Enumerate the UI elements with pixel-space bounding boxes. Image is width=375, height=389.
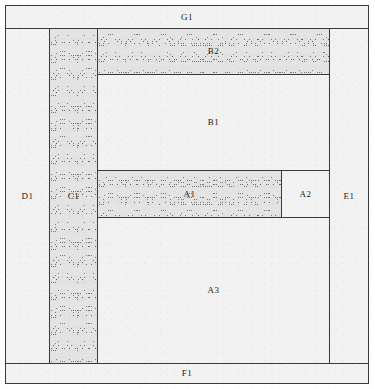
region-label-g1: G1 — [181, 13, 193, 22]
region-a2: A2 — [281, 170, 330, 218]
region-a3: A3 — [97, 217, 330, 364]
region-f1: F1 — [5, 363, 369, 384]
region-label-b1: B1 — [208, 118, 219, 127]
sectional-layout-diagram: G1D1C1B2B1A1A2A3E1F1 — [0, 0, 375, 389]
region-label-a2: A2 — [300, 190, 312, 199]
region-g1: G1 — [5, 5, 369, 29]
region-c1: C1 — [49, 28, 98, 364]
region-b1: B1 — [97, 74, 330, 171]
region-e1: E1 — [329, 28, 369, 364]
region-label-d1: D1 — [22, 192, 34, 201]
region-a1: A1 — [97, 170, 282, 218]
region-label-f1: F1 — [182, 369, 192, 378]
region-label-a1: A1 — [184, 190, 196, 199]
region-b2: B2 — [97, 28, 330, 75]
region-label-a3: A3 — [208, 286, 220, 295]
region-d1: D1 — [5, 28, 50, 364]
region-label-c1: C1 — [68, 192, 79, 201]
region-label-b2: B2 — [208, 47, 219, 56]
region-label-e1: E1 — [344, 192, 355, 201]
